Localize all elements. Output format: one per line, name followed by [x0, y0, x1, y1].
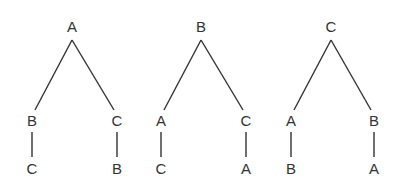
tree-left-node: A: [286, 112, 296, 129]
tree-left-node: A: [156, 112, 166, 129]
tree-left-leaf-node: B: [286, 160, 296, 177]
permutation-tree-diagram: ABCCBBACCACABBA: [0, 0, 398, 182]
tree-right-leaf-node: A: [241, 160, 251, 177]
tree-root-node: B: [196, 18, 206, 35]
tree-left-node: B: [27, 112, 37, 129]
tree-right-node: C: [112, 112, 123, 129]
tree-edge: [164, 40, 201, 110]
tree-left-leaf-node: C: [27, 160, 38, 177]
tree-left-leaf-node: C: [156, 160, 167, 177]
tree-edge: [201, 40, 243, 110]
tree-edge: [294, 40, 331, 110]
tree-right-leaf-node: B: [112, 160, 122, 177]
tree-right-leaf-node: A: [369, 160, 379, 177]
tree-right-node: C: [241, 112, 252, 129]
tree-right-node: B: [369, 112, 379, 129]
tree-edge: [35, 40, 72, 110]
tree-root-node: C: [326, 18, 337, 35]
tree-edge: [72, 40, 114, 110]
tree-edge: [331, 40, 371, 110]
tree-root-node: A: [67, 18, 77, 35]
